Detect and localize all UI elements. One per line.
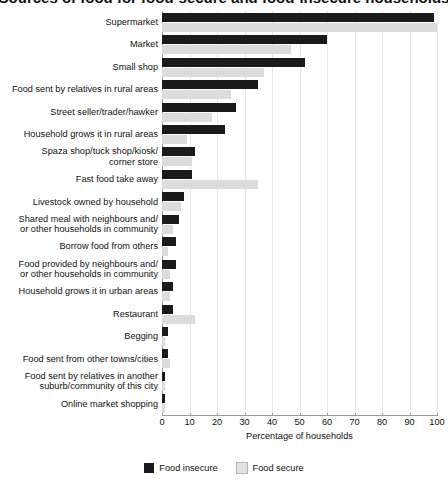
x-tick-label: 60 (322, 417, 332, 427)
legend-label: Food secure (253, 463, 304, 473)
x-tick-label: 30 (239, 417, 249, 427)
category-label-line: Begging (0, 331, 158, 342)
bar-food-insecure (162, 125, 225, 134)
bar-food-insecure (162, 327, 168, 336)
gridline (437, 11, 438, 415)
tick-mark (327, 413, 328, 416)
bar-group (162, 260, 437, 279)
bar-food-insecure (162, 305, 173, 314)
x-tick-label: 50 (294, 417, 304, 427)
bar-food-insecure (162, 282, 173, 291)
bar-food-insecure (162, 372, 165, 381)
category-label: Supermarket (0, 17, 158, 28)
bar-group (162, 80, 437, 99)
category-label: Small shop (0, 62, 158, 73)
legend-label: Food insecure (159, 463, 217, 473)
x-tick-label: 40 (267, 417, 277, 427)
category-label: Food sent by relatives in anothersuburb/… (0, 371, 158, 392)
category-label: Online market shopping (0, 399, 158, 410)
x-tick-label: 100 (429, 417, 444, 427)
category-axis-labels: SupermarketMarketSmall shopFood sent by … (0, 11, 158, 415)
category-label-line: suburb/community of this city (0, 381, 158, 392)
category-label-line: Street seller/trader/hawker (0, 107, 158, 118)
bar-food-insecure (162, 237, 176, 246)
tick-mark (382, 413, 383, 416)
bar-food-insecure (162, 349, 168, 358)
plot-area (162, 11, 437, 415)
category-label: Household grows it in urban areas (0, 286, 158, 297)
category-label: Shared meal with neighbours and/or other… (0, 214, 158, 235)
x-tick-label: 20 (212, 417, 222, 427)
bar-food-secure (162, 45, 291, 54)
bar-food-insecure (162, 147, 195, 156)
category-label: Food provided by neighbours and/or other… (0, 259, 158, 280)
tick-mark (410, 413, 411, 416)
bar-food-secure (162, 359, 170, 368)
bar-food-secure (162, 292, 170, 301)
x-tick-label: 70 (349, 417, 359, 427)
category-label-line: Market (0, 39, 158, 50)
category-label: Restaurant (0, 309, 158, 320)
bar-group (162, 305, 437, 324)
category-label-line: Supermarket (0, 17, 158, 28)
bar-food-secure (162, 180, 258, 189)
bar-food-insecure (162, 394, 165, 403)
bar-food-secure (162, 225, 173, 234)
bar-food-secure (162, 247, 168, 256)
category-label-line: Online market shopping (0, 399, 158, 410)
bar-food-insecure (162, 80, 258, 89)
bar-food-secure (162, 270, 170, 279)
bar-food-insecure (162, 170, 192, 179)
tick-mark (217, 413, 218, 416)
category-label-line: Shared meal with neighbours and/ (0, 214, 158, 225)
tick-mark (355, 413, 356, 416)
category-label: Spaza shop/tuck shop/kiosk/corner store (0, 146, 158, 167)
category-label: Begging (0, 331, 158, 342)
chart-legend: Food insecureFood secure (0, 462, 448, 474)
bar-group (162, 237, 437, 256)
bar-food-insecure (162, 13, 434, 22)
category-label-line: Food sent by relatives in rural areas (0, 84, 158, 95)
x-axis-title: Percentage of households (162, 431, 437, 441)
x-tick-label: 0 (159, 417, 164, 427)
tick-mark (272, 413, 273, 416)
category-label-line: Livestock owned by household (0, 197, 158, 208)
category-label-line: Food sent from other towns/cities (0, 354, 158, 365)
category-label-line: or other households in community (0, 269, 158, 280)
bar-group (162, 394, 437, 413)
bar-group (162, 327, 437, 346)
bar-food-secure (162, 135, 187, 144)
x-tick-label: 10 (184, 417, 194, 427)
category-label-line: Restaurant (0, 309, 158, 320)
bar-group (162, 170, 437, 189)
bar-food-secure (162, 337, 165, 346)
bar-food-secure (162, 90, 231, 99)
category-label-line: Fast food take away (0, 174, 158, 185)
bar-food-secure (162, 382, 165, 391)
bar-food-secure (162, 68, 264, 77)
bar-food-insecure (162, 35, 327, 44)
bar-group (162, 35, 437, 54)
bar-group (162, 13, 437, 32)
bar-food-insecure (162, 58, 305, 67)
bar-food-secure (162, 23, 437, 32)
category-label-line: corner store (0, 157, 158, 168)
category-label: Market (0, 39, 158, 50)
category-label: Borrow food from others (0, 241, 158, 252)
category-label: Food sent by relatives in rural areas (0, 84, 158, 95)
bar-rows (162, 11, 437, 415)
bar-group (162, 372, 437, 391)
category-label-line: or other households in community (0, 224, 158, 235)
x-tick-label: 90 (404, 417, 414, 427)
legend-swatch-icon (144, 463, 154, 473)
category-label-line: Small shop (0, 62, 158, 73)
category-label-line: Household grows it in rural areas (0, 129, 158, 140)
bar-group (162, 192, 437, 211)
category-label-line: Household grows it in urban areas (0, 286, 158, 297)
legend-item[interactable]: Food secure (236, 462, 304, 474)
bar-food-insecure (162, 192, 184, 201)
tick-mark (245, 413, 246, 416)
legend-item[interactable]: Food insecure (144, 463, 217, 473)
category-label: Livestock owned by household (0, 197, 158, 208)
bar-group (162, 147, 437, 166)
